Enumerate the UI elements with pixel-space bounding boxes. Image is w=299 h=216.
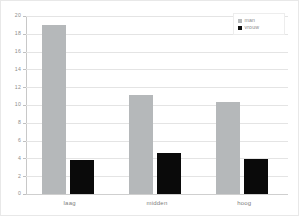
y-axis-tick-mark (23, 105, 26, 106)
legend-item-man: man (238, 17, 280, 24)
bar-man-laag (42, 25, 66, 194)
y-axis-tick-mark (23, 176, 26, 177)
y-axis-tick-label: 8 (1, 120, 21, 125)
bar-vrouw-hoog (244, 159, 268, 194)
y-axis-tick-mark (23, 52, 26, 53)
legend-label-vrouw: vrouw (245, 25, 260, 30)
bar-vrouw-midden (157, 153, 181, 194)
bar-man-hoog (216, 102, 240, 194)
gridline (26, 194, 288, 195)
y-axis-tick-label: 2 (1, 174, 21, 179)
chart-legend: man vrouw (233, 13, 285, 35)
x-axis-label-midden: midden (113, 200, 200, 206)
y-axis-tick-mark (23, 16, 26, 17)
y-axis-tick-mark (23, 87, 26, 88)
y-axis-tick-label: 10 (1, 102, 21, 107)
y-axis-tick-label: 6 (1, 138, 21, 143)
bar-chart-figure: 02468101214161820 laagmiddenhoog man vro… (0, 0, 299, 216)
y-axis-tick-label: 18 (1, 31, 21, 36)
y-axis-tick-mark (23, 123, 26, 124)
legend-label-man: man (245, 18, 256, 23)
legend-swatch-vrouw-icon (238, 26, 242, 30)
y-axis-tick-label: 12 (1, 85, 21, 90)
y-axis-tick-label: 4 (1, 156, 21, 161)
legend-item-vrouw: vrouw (238, 24, 280, 31)
bar-vrouw-laag (70, 160, 94, 194)
x-axis-label-laag: laag (26, 200, 113, 206)
y-axis-tick-label: 0 (1, 191, 21, 196)
y-axis-tick-mark (23, 34, 26, 35)
y-axis-tick-label: 14 (1, 67, 21, 72)
y-axis-tick-mark (23, 158, 26, 159)
y-axis-tick-mark (23, 194, 26, 195)
y-axis-tick-mark (23, 69, 26, 70)
y-axis-tick-label: 20 (1, 13, 21, 18)
x-axis-label-hoog: hoog (201, 200, 288, 206)
y-axis-tick-label: 16 (1, 49, 21, 54)
y-axis-tick-mark (23, 141, 26, 142)
bar-man-midden (129, 95, 153, 194)
legend-swatch-man-icon (238, 19, 242, 23)
